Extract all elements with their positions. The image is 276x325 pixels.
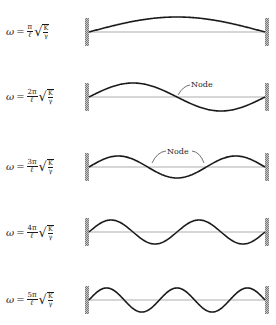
left-wall: [85, 286, 89, 314]
node-leader: [192, 151, 204, 163]
right-wall: [265, 153, 269, 181]
right-wall: [265, 18, 269, 46]
left-wall: [85, 218, 89, 246]
node-leader: [152, 151, 166, 163]
modes-group: [85, 17, 269, 314]
right-wall: [265, 83, 269, 111]
standing-wave-diagram: [0, 0, 276, 325]
node-label: Node: [167, 147, 189, 156]
node-leader: [178, 85, 190, 95]
right-wall: [265, 286, 269, 314]
left-wall: [85, 18, 89, 46]
right-wall: [265, 218, 269, 246]
node-label: Node: [191, 80, 213, 89]
left-wall: [85, 83, 89, 111]
left-wall: [85, 153, 89, 181]
string-wave-mode-1: [89, 17, 265, 32]
